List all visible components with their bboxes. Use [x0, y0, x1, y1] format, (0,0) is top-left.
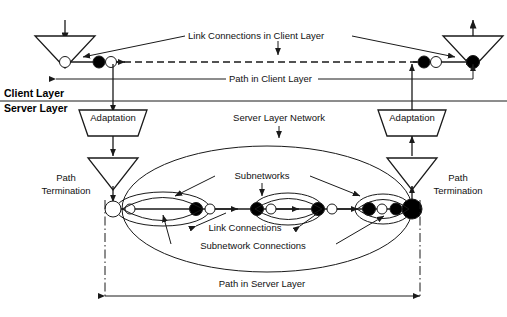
client-cp-open-left — [106, 57, 117, 68]
path-termination-left-line1: Path — [56, 172, 76, 183]
path-termination-left-line2: Termination — [41, 185, 90, 196]
server-layer-network-label: Server Layer Network — [233, 112, 325, 123]
client-layer-label: Client Layer — [4, 87, 64, 99]
link-connections-client-label: Link Connections in Client Layer — [188, 30, 324, 41]
subnetworks-label: Subnetworks — [235, 170, 290, 181]
path-termination-right-line1: Path — [448, 172, 468, 183]
path-termination-right-line2: Termination — [433, 185, 482, 196]
server-snp-filled-2 — [251, 203, 264, 216]
server-snp-open-4 — [327, 204, 337, 214]
server-snp-open-1 — [125, 204, 135, 214]
path-server-label: Path in Server Layer — [219, 278, 306, 289]
client-cp-open-right — [431, 57, 442, 68]
path-client-label: Path in Client Layer — [229, 73, 312, 84]
server-snp-open-2 — [205, 204, 215, 214]
link-connections-label: Link Connections — [209, 222, 282, 233]
server-tp-left-open — [105, 201, 121, 217]
subnetwork-connections-label: Subnetwork Connections — [200, 240, 306, 251]
server-snp-open-3 — [266, 204, 276, 214]
client-tp-left-open — [60, 57, 71, 68]
network-layering-diagram: Link Connections in Client Layer Path in… — [0, 0, 507, 317]
adaptation-right-label: Adaptation — [389, 112, 434, 123]
server-snp-filled-5 — [390, 203, 402, 215]
adaptation-left-label: Adaptation — [90, 112, 135, 123]
server-snp-filled-1 — [190, 203, 203, 216]
client-cp-filled-left — [93, 56, 105, 68]
server-snp-open-5 — [377, 204, 387, 214]
server-layer-label: Server Layer — [4, 102, 68, 114]
client-cp-filled-right — [418, 56, 430, 68]
server-tp-right-filled — [402, 199, 422, 219]
